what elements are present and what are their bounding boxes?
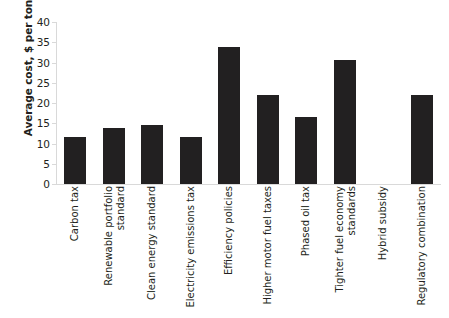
x-label-slot: Clean energy standard [133,186,172,316]
x-label-slot: Efficiency policies [210,186,249,316]
bar-slot [210,22,249,184]
y-tick-label: 40 [28,17,50,27]
y-tick-label: 20 [28,98,50,108]
x-axis-label-line: Carbon tax [70,186,81,241]
bar-slot [95,22,134,184]
y-tick-label: 25 [28,78,50,88]
bar-slot [326,22,365,184]
x-axis-label-line: Higher motor fuel taxes [262,186,273,305]
bar-chart: Average cost, $ per ton 0510152025303540… [0,0,449,318]
x-label-slot: Renewable portfoliostandard [95,186,134,316]
x-axis-label-line: Tighter fuel economy [333,186,344,292]
x-label-slot: Tighter fuel economystandards [326,186,365,316]
x-axis-label: Higher motor fuel taxes [262,186,274,305]
y-tick-label: 10 [28,139,50,149]
x-axis-label: Phased oil tax [301,186,313,256]
bar-slot [403,22,442,184]
x-axis-label: Regulatory combination [416,186,428,306]
y-tick-mark [52,184,56,185]
x-axis-label-line: Efficiency policies [224,186,235,275]
x-axis-label: Renewable portfoliostandard [102,186,125,286]
x-axis-label-line: Clean energy standard [147,186,158,300]
x-axis-label: Hybrid subsidy [378,186,390,260]
x-axis-label: Tighter fuel economystandards [333,186,356,292]
x-axis-label: Electricity emissions tax [185,186,197,308]
x-axis-label-line: standard [114,186,126,286]
bar[interactable] [295,117,317,184]
bar[interactable] [257,95,279,184]
bar-series [56,22,441,184]
bar[interactable] [64,137,86,184]
plot-area: 0510152025303540 [56,22,441,184]
bar[interactable] [103,128,125,184]
bar-slot [249,22,288,184]
bar[interactable] [411,95,433,184]
y-tick-label: 35 [28,37,50,47]
bar-slot [56,22,95,184]
x-axis-label: Efficiency policies [224,186,236,275]
x-label-slot: Hybrid subsidy [364,186,403,316]
x-axis-label: Clean energy standard [147,186,159,300]
bar-slot [364,22,403,184]
x-label-slot: Carbon tax [56,186,95,316]
y-tick-label: 5 [28,159,50,169]
x-axis-labels: Carbon taxRenewable portfoliostandardCle… [56,186,441,316]
x-label-slot: Regulatory combination [403,186,442,316]
x-axis-label-line: Renewable portfolio [102,186,113,286]
x-axis-label-line: Phased oil tax [301,186,312,256]
y-tick-label: 30 [28,58,50,68]
x-label-slot: Higher motor fuel taxes [249,186,288,316]
x-axis-label-line: standards [345,186,357,292]
x-axis-label: Carbon tax [70,186,82,241]
y-tick-label: 0 [28,179,50,189]
y-tick-label: 15 [28,118,50,128]
bar-slot [172,22,211,184]
bar[interactable] [334,60,356,184]
x-axis-label-line: Hybrid subsidy [378,186,389,260]
x-axis-label-line: Regulatory combination [416,186,427,306]
bar[interactable] [180,137,202,184]
bar-slot [287,22,326,184]
bar[interactable] [141,125,163,184]
bar-slot [133,22,172,184]
bar[interactable] [218,47,240,184]
x-axis-label-line: Electricity emissions tax [185,186,196,308]
x-label-slot: Phased oil tax [287,186,326,316]
x-label-slot: Electricity emissions tax [172,186,211,316]
x-axis-line [56,184,441,185]
